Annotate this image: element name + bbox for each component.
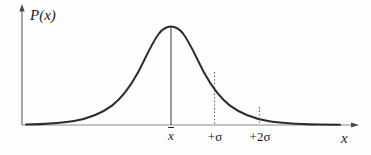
x-axis-arrow-icon — [351, 122, 359, 127]
tick-label-sigma1: +σ — [208, 130, 222, 143]
plot-canvas — [0, 0, 371, 155]
gaussian-curve — [26, 27, 340, 125]
y-axis-label: P(x) — [30, 8, 56, 23]
tick-label-mean: x — [168, 129, 174, 142]
tick-label-sigma2: +2σ — [250, 130, 271, 143]
x-axis-label: x — [341, 131, 348, 146]
gaussian-distribution-figure: P(x) x x +σ +2σ — [0, 0, 371, 155]
mean-overbar-text: x — [168, 128, 174, 143]
y-axis-arrow-icon — [19, 4, 24, 12]
